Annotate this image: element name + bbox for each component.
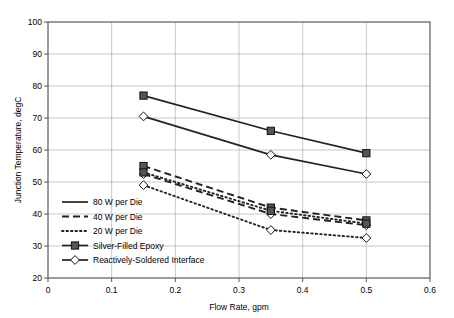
marker-open-diamond xyxy=(71,256,80,265)
y-tick-label: 70 xyxy=(33,113,43,123)
marker-open-diamond xyxy=(362,170,371,179)
x-tick-label: 0.4 xyxy=(297,285,309,295)
marker-filled-square xyxy=(267,207,274,214)
y-tick-label: 50 xyxy=(33,177,43,187)
legend: 80 W per Die40 W per Die20 W per DieSilv… xyxy=(62,197,205,265)
chart-container: 2030405060708090100 00.10.20.30.40.50.6 … xyxy=(0,0,454,318)
legend-label: 80 W per Die xyxy=(93,197,143,207)
y-tick-label: 40 xyxy=(33,209,43,219)
x-tick-label: 0.3 xyxy=(233,285,245,295)
marker-open-diamond xyxy=(139,112,148,121)
series-line xyxy=(144,96,367,154)
marker-filled-square xyxy=(140,169,147,176)
data-series xyxy=(139,181,371,243)
y-tick-label: 20 xyxy=(33,273,43,283)
marker-filled-square xyxy=(363,220,370,227)
x-tick-label: 0 xyxy=(46,285,51,295)
data-series xyxy=(139,112,371,178)
data-series xyxy=(139,170,371,230)
legend-label: 20 W per Die xyxy=(93,226,143,236)
legend-label: 40 W per Die xyxy=(93,212,143,222)
marker-open-diamond xyxy=(266,226,275,235)
marker-filled-square xyxy=(140,92,147,99)
y-axis-title: Junction Temperature, degC xyxy=(13,97,23,204)
grid-lines xyxy=(48,22,430,278)
x-axis-tick-labels: 00.10.20.30.40.50.6 xyxy=(46,278,437,295)
x-axis-title: Flow Rate, gpm xyxy=(209,302,269,312)
series-line xyxy=(144,185,367,238)
y-axis-tick-labels: 2030405060708090100 xyxy=(28,17,48,283)
y-tick-label: 90 xyxy=(33,49,43,59)
x-tick-label: 0.2 xyxy=(169,285,181,295)
y-tick-label: 30 xyxy=(33,241,43,251)
marker-filled-square xyxy=(363,150,370,157)
series-line xyxy=(144,166,367,220)
data-series xyxy=(140,92,370,157)
x-tick-label: 0.5 xyxy=(360,285,372,295)
x-tick-label: 0.1 xyxy=(106,285,118,295)
y-tick-label: 100 xyxy=(28,17,42,27)
data-series-group xyxy=(139,92,371,242)
marker-filled-square xyxy=(71,242,78,249)
data-series xyxy=(140,162,370,224)
marker-open-diamond xyxy=(266,150,275,159)
legend-label: Silver-Filled Epoxy xyxy=(93,241,164,251)
y-tick-label: 80 xyxy=(33,81,43,91)
y-tick-label: 60 xyxy=(33,145,43,155)
legend-label: Reactively-Soldered Interface xyxy=(93,255,205,265)
x-tick-label: 0.6 xyxy=(424,285,436,295)
marker-filled-square xyxy=(267,127,274,134)
line-chart: 2030405060708090100 00.10.20.30.40.50.6 … xyxy=(0,0,454,318)
series-line xyxy=(144,172,367,223)
marker-open-diamond xyxy=(362,234,371,243)
data-series xyxy=(140,169,370,227)
